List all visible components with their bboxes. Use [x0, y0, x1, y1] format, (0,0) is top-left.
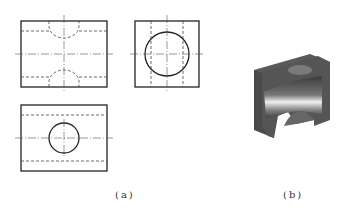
front-view: [15, 15, 113, 93]
isometric-3d-model: [254, 54, 330, 138]
side-view: [130, 15, 204, 93]
top-view: [15, 105, 113, 171]
label-a: (a): [115, 189, 135, 200]
orthographic-drawing: [0, 0, 344, 212]
label-b: (b): [283, 189, 303, 200]
